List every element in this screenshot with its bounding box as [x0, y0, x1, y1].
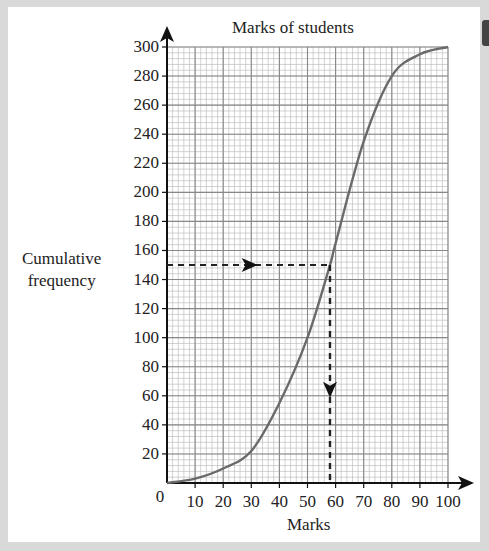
y-tick-label: 100: [119, 328, 159, 348]
y-axis-label-line2: frequency: [22, 270, 101, 292]
y-axis-label: Cumulative frequency: [22, 248, 101, 292]
y-tick-label: 220: [119, 153, 159, 173]
y-tick-label: 140: [119, 270, 159, 290]
y-tick-label: 260: [119, 95, 159, 115]
y-tick-label: 200: [119, 182, 159, 202]
x-axis-label: Marks: [287, 515, 330, 535]
y-tick-label: 280: [119, 66, 159, 86]
y-tick-label: 80: [119, 357, 159, 377]
y-axis-label-line1: Cumulative: [22, 248, 101, 270]
y-tick-label: 20: [119, 444, 159, 464]
y-tick-label: 240: [119, 124, 159, 144]
y-tick-label: 40: [119, 415, 159, 435]
origin-label: 0: [143, 487, 177, 507]
y-tick-label: 180: [119, 211, 159, 231]
y-tick-label: 120: [119, 299, 159, 319]
y-tick-label: 300: [119, 37, 159, 57]
x-tick-label: 100: [431, 492, 465, 512]
y-tick-label: 60: [119, 386, 159, 406]
y-tick-label: 160: [119, 240, 159, 260]
chart-title: Marks of students: [232, 18, 354, 38]
